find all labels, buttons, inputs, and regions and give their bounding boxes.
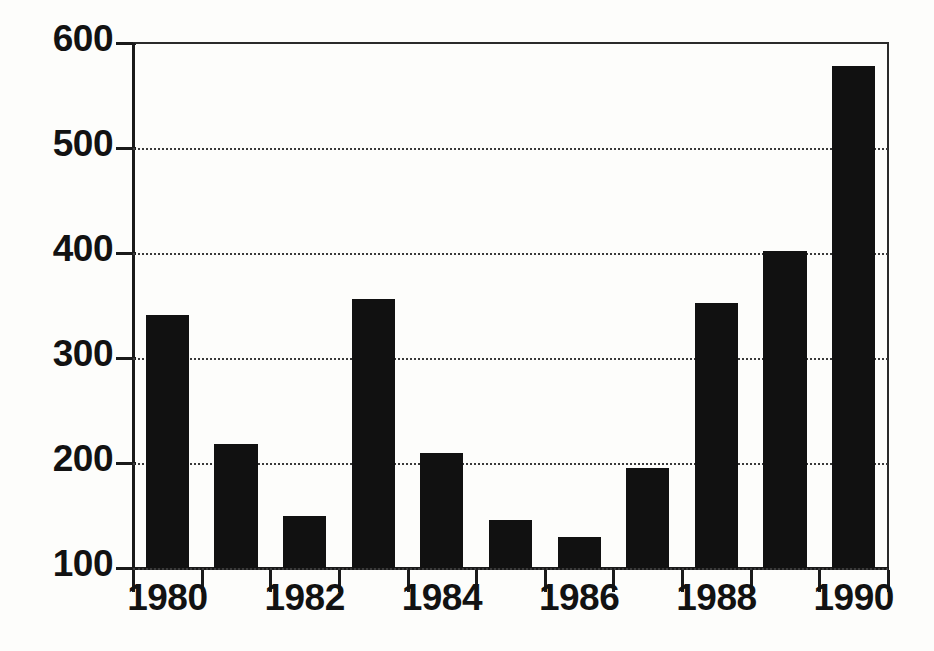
bar: [763, 251, 806, 568]
x-axis-tick-label: 1982: [225, 577, 385, 619]
bar: [695, 303, 738, 568]
bar: [146, 315, 189, 568]
x-axis-tick-label: 1986: [499, 577, 659, 619]
bar: [626, 468, 669, 568]
bar: [420, 453, 463, 569]
x-axis-tick-label: 1984: [362, 577, 522, 619]
bar: [214, 444, 257, 568]
y-axis-tick-label: 300: [8, 333, 113, 375]
gridline-y: [133, 148, 888, 150]
bar: [832, 66, 875, 568]
bar: [283, 516, 326, 569]
y-axis-tick-label: 400: [8, 228, 113, 270]
bar: [558, 537, 601, 569]
bar: [489, 520, 532, 568]
bar-chart: 600500400300200100 198019821984198619881…: [0, 0, 934, 651]
x-axis-tick-label: 1980: [87, 577, 247, 619]
y-axis-tick-label: 500: [8, 123, 113, 165]
gridline-y: [133, 568, 888, 570]
bar: [352, 299, 395, 568]
plot-area: [133, 43, 888, 568]
x-axis-tick-label: 1990: [774, 577, 934, 619]
y-axis-tick-label: 200: [8, 438, 113, 480]
y-axis-tick-label: 600: [8, 18, 113, 60]
x-axis-tick-label: 1988: [636, 577, 796, 619]
